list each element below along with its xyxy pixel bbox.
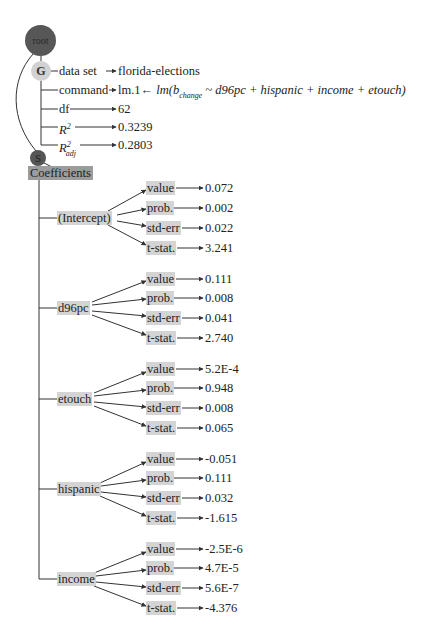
coef-etouch[interactable]: etouch [57, 392, 92, 406]
label-std-err: std-err [146, 581, 181, 595]
intercept-value: 0.072 [205, 181, 233, 195]
label-value: value [146, 362, 175, 376]
income-value: -2.5E-6 [205, 542, 243, 556]
key-command: command [59, 83, 108, 97]
etouch-prob: 0.948 [205, 381, 233, 395]
label-t-stat: t-stat. [146, 511, 176, 525]
key-df: df [59, 102, 69, 116]
label-value: value [146, 181, 175, 195]
label-prob: prob. [146, 561, 174, 575]
label-value: value [146, 272, 175, 286]
label-std-err: std-err [146, 311, 181, 325]
d96pc-value: 0.111 [205, 272, 232, 286]
value-data-set: florida-elections [118, 64, 200, 78]
label-std-err: std-err [146, 401, 181, 415]
hispanic-std-err: 0.032 [205, 491, 233, 505]
income-prob: 4.7E-5 [205, 561, 239, 575]
coef-hispanic[interactable]: hispanic [57, 482, 101, 496]
d96pc-std-err: 0.041 [205, 311, 233, 325]
command-sub: change [179, 91, 202, 100]
key-r2-adj: R2adj [59, 138, 76, 161]
hispanic-value: -0.051 [205, 452, 237, 466]
label-prob: prob. [146, 291, 174, 305]
etouch-t-stat: 0.065 [205, 421, 233, 435]
coef-income[interactable]: income [57, 572, 96, 586]
command-prefix: lm.1← [118, 83, 153, 97]
label-t-stat: t-stat. [146, 421, 176, 435]
d96pc-t-stat: 2.740 [205, 331, 233, 345]
general-node[interactable]: G [31, 61, 51, 81]
value-r2: 0.3239 [118, 120, 152, 134]
general-label: G [36, 64, 45, 79]
intercept-std-err: 0.022 [205, 221, 233, 235]
label-prob: prob. [146, 471, 174, 485]
root-node[interactable]: root [25, 25, 56, 56]
label-prob: prob. [146, 201, 174, 215]
etouch-value: 5.2E-4 [205, 362, 239, 376]
etouch-std-err: 0.008 [205, 401, 233, 415]
value-df: 62 [118, 102, 131, 116]
coef-intercept[interactable]: (Intercept) [57, 211, 112, 225]
label-t-stat: t-stat. [146, 331, 176, 345]
label-std-err: std-err [146, 491, 181, 505]
intercept-t-stat: 3.241 [205, 241, 233, 255]
label-value: value [146, 452, 175, 466]
income-t-stat: -4.376 [205, 601, 237, 615]
command-fn: lm( [156, 83, 173, 97]
root-label: root [32, 35, 48, 46]
value-command: lm.1← lm(bchange ~ d96pc + hispanic + in… [118, 83, 406, 103]
summary-node[interactable]: S [30, 150, 46, 166]
intercept-prob: 0.002 [205, 201, 233, 215]
summary-label: S [35, 152, 41, 164]
coef-d96pc[interactable]: d96pc [57, 301, 90, 315]
coefficients-header[interactable]: Coefficients [28, 166, 93, 180]
value-r2-adj: 0.2803 [118, 138, 152, 152]
command-rest: ~ d96pc + hispanic + income + etouch) [202, 83, 406, 97]
hispanic-prob: 0.111 [205, 471, 232, 485]
key-r2: R2 [59, 120, 71, 137]
income-std-err: 5.6E-7 [205, 581, 239, 595]
key-data-set: data set [59, 64, 97, 78]
d96pc-prob: 0.008 [205, 291, 233, 305]
label-t-stat: t-stat. [146, 601, 176, 615]
label-value: value [146, 542, 175, 556]
hispanic-t-stat: -1.615 [205, 511, 237, 525]
label-std-err: std-err [146, 221, 181, 235]
label-prob: prob. [146, 381, 174, 395]
label-t-stat: t-stat. [146, 241, 176, 255]
